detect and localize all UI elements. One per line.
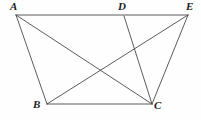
vertex-label-d: D [118, 1, 126, 12]
segment-dc [124, 16, 152, 104]
segment-be [47, 15, 188, 104]
vertex-label-b: B [33, 99, 40, 110]
segment-ac [16, 15, 152, 104]
vertex-label-e: E [186, 1, 193, 12]
geometry-canvas [0, 0, 201, 120]
edge-group [16, 15, 188, 104]
segment-ab [16, 15, 47, 104]
vertex-label-c: C [154, 100, 161, 111]
geometry-figure: ADEBC [0, 0, 201, 120]
segment-ce [152, 15, 188, 104]
vertex-label-a: A [10, 1, 17, 12]
